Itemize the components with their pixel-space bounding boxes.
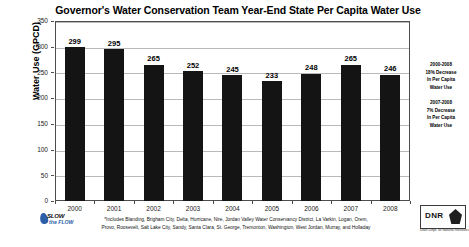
bar-value-label: 246	[384, 64, 397, 73]
bar-value-label: 265	[345, 54, 358, 63]
footnote-line: Provo, Roosevelt, Salt Lake City, Sandy,…	[52, 224, 420, 232]
bar-slot: 295	[94, 21, 133, 201]
x-tick-label: 2001	[94, 205, 134, 212]
bar-value-label: 299	[68, 37, 81, 46]
table-row[interactable]	[262, 81, 282, 201]
table-row[interactable]	[301, 74, 321, 202]
shield-icon	[449, 209, 462, 224]
x-tick-label: 2006	[291, 205, 331, 212]
annotation-line: 2007-2008	[414, 99, 468, 107]
x-tick-mark	[331, 201, 332, 204]
bar-slot: 248	[292, 21, 331, 201]
x-tick-mark	[410, 201, 411, 204]
y-tick-label: 0	[24, 197, 48, 204]
x-tick-label: 2004	[213, 205, 253, 212]
chart-page: Governor's Water Conservation Team Year-…	[0, 0, 469, 247]
x-tick-mark	[371, 201, 372, 204]
slow-the-flow-line1: SLOW	[47, 212, 64, 219]
slow-the-flow-logo: SLOW the FLOW	[40, 212, 82, 234]
annotation-line: In Per Capita	[414, 76, 468, 84]
table-row[interactable]	[104, 49, 124, 201]
annotation-line: 18% Decrease	[414, 69, 468, 77]
y-tick-mark	[51, 175, 54, 176]
footnote-line: *Includes Blanding, Brigham City, Delta,…	[52, 216, 420, 224]
bar-slot: 265	[134, 21, 173, 201]
table-row[interactable]	[144, 65, 164, 201]
x-tick-mark	[134, 201, 135, 204]
y-tick-label: 250	[24, 69, 48, 76]
bar-slot: 265	[331, 21, 370, 201]
y-tick-label: 100	[24, 146, 48, 153]
y-tick-label: 300	[24, 43, 48, 50]
dnr-logo: DNR Utah Dept. of Natural Resources	[420, 205, 464, 235]
y-tick-label: 350	[24, 17, 48, 24]
annotation-2000-2008: 2000-2008 18% Decrease In Per Capita Wat…	[414, 61, 468, 91]
annotation-line: Water Use	[414, 84, 468, 92]
footnote: *Includes Blanding, Brigham City, Delta,…	[52, 216, 420, 233]
x-tick-mark	[292, 201, 293, 204]
table-row[interactable]	[222, 75, 242, 201]
x-tick-label: 2008	[370, 205, 410, 212]
y-tick-mark	[51, 47, 54, 48]
x-tick-mark	[213, 201, 214, 204]
bar-slot: 233	[252, 21, 291, 201]
x-tick-label: 2005	[252, 205, 292, 212]
dnr-subtitle: Utah Dept. of Natural Resources	[420, 228, 464, 232]
slow-the-flow-line2: the FLOW	[49, 219, 74, 225]
y-tick-mark	[51, 124, 54, 125]
y-tick-label: 200	[24, 94, 48, 101]
annotation-line: In Per Capita	[414, 114, 468, 122]
y-tick-label: 50	[24, 172, 48, 179]
bar-slot: 299	[55, 21, 94, 201]
x-tick-label: 2000	[55, 205, 95, 212]
bar-slot: 246	[371, 21, 410, 201]
bar-value-label: 248	[305, 63, 318, 72]
table-row[interactable]	[380, 75, 400, 202]
bar-value-label: 295	[108, 39, 121, 48]
y-tick-mark	[51, 201, 54, 202]
bar-value-label: 265	[147, 54, 160, 63]
dnr-logo-box: DNR	[420, 205, 466, 229]
annotation-2007-2008: 2007-2008 7% Decrease In Per Capita Wate…	[414, 99, 468, 129]
x-tick-mark	[94, 201, 95, 204]
x-tick-label: 2002	[134, 205, 174, 212]
x-tick-label: 2003	[173, 205, 213, 212]
annotation-line: Water Use	[414, 122, 468, 130]
x-tick-mark	[55, 201, 56, 204]
bars-layer: 299 295 265 252 245 233 248 265	[55, 21, 410, 201]
page-title: Governor's Water Conservation Team Year-…	[38, 4, 438, 16]
y-tick-mark	[51, 21, 54, 22]
x-tick-label: 2007	[331, 205, 371, 212]
y-tick-mark	[51, 150, 54, 151]
bar-slot: 245	[213, 21, 252, 201]
y-tick-label: 150	[24, 120, 48, 127]
table-row[interactable]	[341, 65, 361, 201]
annotation-line: 7% Decrease	[414, 107, 468, 115]
bar-value-label: 252	[187, 61, 200, 70]
table-row[interactable]	[65, 47, 85, 201]
y-tick-mark	[51, 72, 54, 73]
bar-slot: 252	[173, 21, 212, 201]
y-tick-mark	[51, 98, 54, 99]
bar-value-label: 245	[226, 65, 239, 74]
table-row[interactable]	[183, 71, 203, 201]
annotation-line: 2000-2008	[414, 61, 468, 69]
x-tick-mark	[173, 201, 174, 204]
x-tick-mark	[252, 201, 253, 204]
dnr-label: DNR	[425, 211, 444, 220]
bar-value-label: 233	[266, 71, 279, 80]
